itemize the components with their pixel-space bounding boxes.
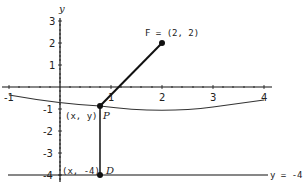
parabola-diagram: -1 1 2 3 4 3 2 1 -1 -2 -3 -4 y y = -4 F … bbox=[0, 0, 307, 188]
y-tick-label: -3 bbox=[43, 148, 53, 159]
focus-point bbox=[159, 40, 165, 46]
y-tick-label: -2 bbox=[43, 126, 53, 137]
x-tick-label: -1 bbox=[4, 92, 14, 103]
x-tick-label: 3 bbox=[210, 92, 216, 103]
y-tick-label: -1 bbox=[43, 104, 53, 115]
focus-label: F = (2, 2) bbox=[145, 28, 199, 38]
y-axis-label: y bbox=[58, 3, 65, 14]
y-tick-label: 2 bbox=[49, 38, 55, 49]
point-p-name-label: P bbox=[102, 110, 110, 121]
point-d-coord-label: (x, -4) bbox=[62, 166, 100, 176]
point-p bbox=[97, 103, 103, 109]
y-tick-label: 1 bbox=[49, 60, 55, 71]
x-tick-label: 4 bbox=[261, 92, 267, 103]
directrix-label: y = -4 bbox=[270, 170, 303, 180]
point-p-coord-label: (x, y) bbox=[65, 111, 98, 121]
x-tick-label: 2 bbox=[159, 92, 165, 103]
y-tick-label: 3 bbox=[49, 16, 55, 27]
segment-pf bbox=[100, 43, 162, 106]
point-d-name-label: D bbox=[105, 165, 114, 176]
